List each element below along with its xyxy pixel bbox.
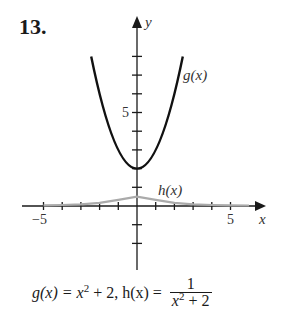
y-axis [132,24,142,270]
g-curve-label: g(x) [183,67,207,84]
function-definitions: g(x) = x2 + 2, h(x) = 1 x2 + 2 [32,278,212,311]
fraction-numerator: 1 [170,276,212,292]
y-axis-arrow-icon [132,16,142,28]
g-definition: g(x) = x2 + 2, h(x) = [32,284,162,301]
h-curve [44,197,250,206]
h-fraction: 1 x2 + 2 [170,276,212,309]
x-axis-label: x [258,211,266,227]
function-plot: y x 5 −5 5 g(x) h(x) [0,0,285,311]
y-tick-label-5: 5 [122,105,129,120]
x-tick-label-neg5: −5 [32,212,47,227]
y-axis-label: y [143,14,152,30]
x-tick-label-5: 5 [227,212,234,227]
h-curve-label: h(x) [158,182,182,199]
x-axis-arrow-icon [255,201,266,211]
fraction-denominator: x2 + 2 [170,292,212,309]
